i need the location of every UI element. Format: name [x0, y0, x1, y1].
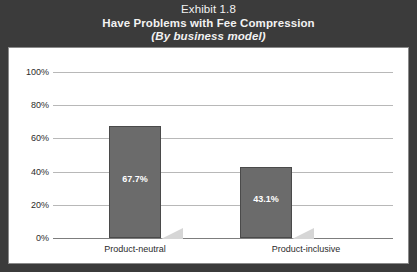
- y-tick-label: 40%: [9, 167, 49, 177]
- plot-area: 67.7% 43.1%: [53, 72, 393, 238]
- bar-product-neutral: 67.7%: [109, 126, 161, 238]
- bar-shadow-product-neutral: [161, 228, 183, 239]
- chart-panel: 100% 80% 60% 40% 20% 0% 67.7% 43.1%: [8, 47, 409, 264]
- y-tick-label: 60%: [9, 133, 49, 143]
- y-axis-labels: 100% 80% 60% 40% 20% 0%: [9, 72, 49, 238]
- x-category-label-product-inclusive: Product-inclusive: [224, 244, 388, 254]
- y-tick-label: 80%: [9, 100, 49, 110]
- gridline-40: [53, 172, 393, 173]
- chart-title: Have Problems with Fee Compression: [0, 17, 417, 31]
- y-tick-label: 100%: [9, 67, 49, 77]
- gridline-20: [53, 205, 393, 206]
- chart-header: Exhibit 1.8 Have Problems with Fee Compr…: [0, 0, 417, 47]
- y-tick-label: 20%: [9, 200, 49, 210]
- x-axis-line: [53, 238, 393, 239]
- bar-product-inclusive: 43.1%: [240, 167, 292, 239]
- chart-subtitle: (By business model): [0, 30, 417, 44]
- x-category-label-product-neutral: Product-neutral: [53, 244, 217, 254]
- gridline-80: [53, 105, 393, 106]
- gridline-100: [53, 72, 393, 73]
- gridline-60: [53, 138, 393, 139]
- bar-shadow-product-inclusive: [292, 228, 314, 239]
- chart-screenshot: Exhibit 1.8 Have Problems with Fee Compr…: [0, 0, 417, 272]
- bar-value-label: 43.1%: [241, 194, 291, 204]
- y-tick-label: 0%: [9, 233, 49, 243]
- exhibit-label: Exhibit 1.8: [0, 3, 417, 17]
- bar-value-label: 67.7%: [110, 174, 160, 184]
